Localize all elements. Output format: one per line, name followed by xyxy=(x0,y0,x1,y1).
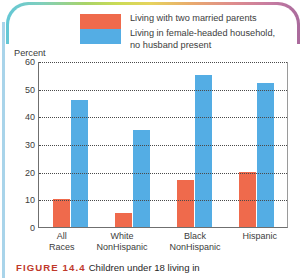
legend-label-female-headed-line1: Living in female-headed household, xyxy=(130,28,275,39)
bar xyxy=(53,199,70,227)
gridline xyxy=(39,173,287,174)
y-axis-tick-label: 10 xyxy=(25,195,35,205)
chart-legend: Living with two married parents Living i… xyxy=(80,13,275,51)
figure-caption: FIGURE 14.4Children under 18 living in xyxy=(16,262,302,274)
bar xyxy=(71,100,88,227)
y-axis-tick-label: 30 xyxy=(25,140,35,150)
gridline xyxy=(39,117,287,118)
y-axis-tick-label: 0 xyxy=(30,223,35,233)
gridline xyxy=(39,62,287,63)
legend-swatch-red xyxy=(80,14,121,29)
legend-swatch-blue xyxy=(80,29,121,44)
figure-caption-text: Children under 18 living in xyxy=(89,262,200,273)
gridline xyxy=(39,200,287,201)
y-axis-tick-label: 50 xyxy=(25,85,35,95)
left-edge-rule xyxy=(2,22,5,278)
x-axis-category-label: Hispanic xyxy=(242,231,277,252)
x-axis-category-label: WhiteNonHispanic xyxy=(96,231,147,252)
gridline xyxy=(39,90,287,91)
legend-swatch-stack xyxy=(80,14,121,44)
legend-label-married-parents: Living with two married parents xyxy=(130,13,275,24)
figure-panel: Living with two married parents Living i… xyxy=(0,0,302,278)
figure-number: FIGURE 14.4 xyxy=(16,262,86,273)
bar xyxy=(195,75,212,227)
bar xyxy=(177,180,194,227)
plot-area-wrapper: 0102030405060 xyxy=(38,62,288,228)
gridline xyxy=(39,145,287,146)
y-axis-tick-label: 20 xyxy=(25,168,35,178)
bar xyxy=(239,172,256,227)
x-axis-category-label: AllRaces xyxy=(49,231,75,252)
x-axis-labels: AllRacesWhiteNonHispanicBlackNonHispanic… xyxy=(38,231,288,252)
x-axis-category-label: BlackNonHispanic xyxy=(169,231,220,252)
bar xyxy=(257,83,274,227)
y-axis-tick-label: 40 xyxy=(25,112,35,122)
plot-area: 0102030405060 xyxy=(38,62,288,228)
y-axis-tick-label: 60 xyxy=(25,57,35,67)
bar xyxy=(115,213,132,227)
legend-label-female-headed-line2: no husband present xyxy=(130,40,275,51)
legend-label-stack: Living with two married parents Living i… xyxy=(130,13,275,51)
